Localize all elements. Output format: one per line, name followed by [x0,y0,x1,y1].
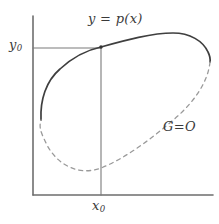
level-set-g: G [163,119,174,134]
level-curve-group [40,33,210,171]
level-set-eq: = [174,119,185,134]
x0-axis-label: x0 [92,199,105,213]
figure-container: y = p(x) y0 x0 G=O [0,0,219,224]
dashed-branch-curve [40,62,210,171]
intersection-marker-group [99,45,102,48]
curve-equation-eq: = [96,11,116,26]
y0-axis-label: y0 [9,38,22,52]
x0-subscript: 0 [100,204,105,214]
x0-base: x [92,198,100,213]
y0-base: y [9,37,17,52]
solid-branch-curve [41,33,210,120]
marked-point-dot [99,45,102,48]
y0-subscript: 0 [17,43,22,53]
level-set-label: G=O [163,120,196,133]
reference-lines-group [33,48,101,195]
diagram-canvas [0,0,219,224]
level-set-zero: O [185,119,196,134]
curve-equation-arg: (x) [124,11,142,26]
axes-group [33,16,213,195]
curve-equation-y: y [88,11,96,26]
curve-equation-label: y = p(x) [88,12,143,25]
